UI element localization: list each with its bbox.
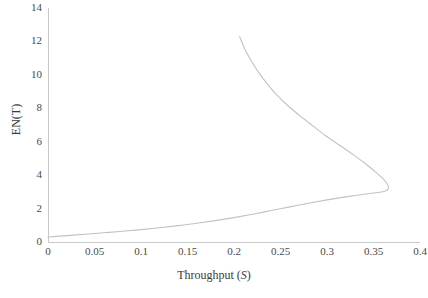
x-tick-label: 0.2	[227, 246, 241, 257]
x-tick-label: 0.4	[413, 246, 427, 257]
y-tick-label: 4	[2, 169, 42, 180]
x-axis-line	[48, 242, 420, 243]
x-axis-label-paren-close: )	[247, 268, 251, 282]
chart-figure: 02468101214 00.050.10.150.20.250.30.350.…	[0, 0, 428, 298]
x-tick-label: 0.25	[271, 246, 290, 257]
x-tick-label: 0.05	[85, 246, 104, 257]
x-tick-label: 0.35	[364, 246, 383, 257]
y-tick-label: 2	[2, 203, 42, 214]
x-tick-label: 0	[45, 246, 51, 257]
y-tick-label: 14	[2, 2, 42, 13]
x-tick-label: 0.15	[178, 246, 197, 257]
x-axis-label-paren-open: (	[234, 268, 241, 282]
x-axis-label: Throughput (S)	[0, 268, 428, 283]
plot-area	[48, 8, 420, 242]
y-tick-label: 12	[2, 35, 42, 46]
x-tick-label: 0.1	[134, 246, 148, 257]
curve-path	[48, 36, 388, 237]
x-tick-label: 0.3	[320, 246, 334, 257]
data-curve	[48, 8, 420, 242]
y-tick-label: 10	[2, 69, 42, 80]
y-tick-label: 0	[2, 236, 42, 247]
y-axis-label: EN(T)	[9, 80, 24, 160]
x-axis-label-text: Throughput	[177, 268, 234, 282]
